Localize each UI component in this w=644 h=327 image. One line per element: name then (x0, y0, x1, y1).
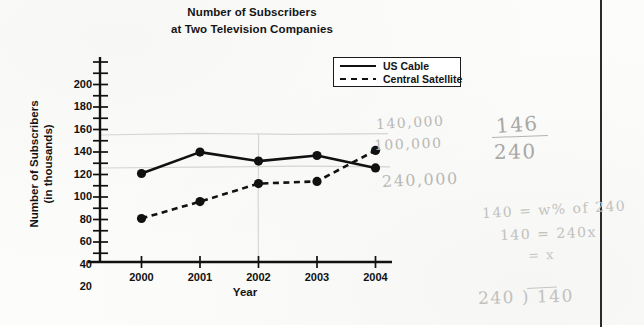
data-point (137, 214, 146, 223)
data-point (195, 148, 204, 157)
x-tick-label-2002: 2002 (237, 272, 281, 283)
y-tick-label-40: 40 (58, 259, 92, 270)
y-tick-label-140: 140 (58, 146, 92, 157)
guide-lines (100, 133, 390, 262)
handwritten-equation-2: 140 = 240x (500, 224, 597, 243)
x-tick-label-2000: 2000 (120, 272, 164, 283)
data-point (312, 151, 321, 160)
y-tick-label-80: 80 (58, 214, 92, 225)
solid-line-icon (340, 61, 376, 71)
data-point (195, 197, 204, 206)
legend-entry-central-satellite: Central Satellite (334, 72, 460, 86)
y-tick-label-60: 60 (58, 236, 92, 247)
data-point (371, 163, 380, 172)
y-tick-label-100: 100 (58, 191, 92, 202)
y-tick-label-20: 20 (58, 281, 92, 292)
legend-entry-us-cable: US Cable (334, 59, 460, 73)
handwritten-long-division: 240 ) 140 (478, 285, 574, 308)
data-point (312, 177, 321, 186)
handwritten-fraction-denominator: 240 (494, 139, 537, 164)
data-point (254, 179, 263, 188)
x-tick-label-2001: 2001 (178, 272, 222, 283)
y-tick-label-180: 180 (58, 101, 92, 112)
chart-legend: US Cable Central Satellite (333, 57, 461, 87)
data-point (254, 157, 263, 166)
y-tick-label-200: 200 (58, 79, 92, 90)
legend-label-central-satellite: Central Satellite (383, 73, 462, 85)
dashed-line-icon (340, 74, 376, 84)
legend-label-us-cable: US Cable (383, 60, 429, 72)
handwritten-note-100000: 100,000 (374, 135, 443, 153)
guide-line-140 (100, 133, 388, 135)
data-point (137, 169, 146, 178)
y-tick-label-120: 120 (58, 169, 92, 180)
handwritten-fraction-numerator: 146 (495, 111, 539, 138)
x-tick-label-2003: 2003 (295, 272, 339, 283)
y-tick-label-160: 160 (58, 124, 92, 135)
handwritten-equation-3: = x (528, 247, 555, 263)
handwritten-note-240000: 240,000 (382, 169, 459, 191)
x-tick-label-2004: 2004 (354, 272, 398, 283)
